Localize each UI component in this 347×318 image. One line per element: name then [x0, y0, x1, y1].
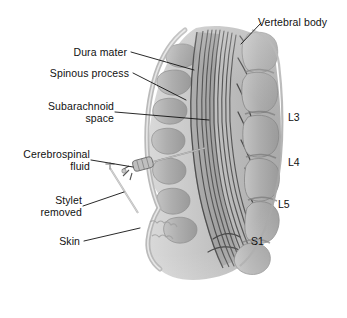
label-subarachnoid-space: Subarachnoid space: [11, 100, 114, 124]
label-vertebral-body: Vertebral body: [258, 16, 344, 28]
label-skin: Skin: [30, 235, 80, 247]
csf-droplet: [122, 169, 126, 173]
lumbar-puncture-figure: Vertebral body Dura mater Spinous proces…: [0, 0, 347, 318]
level-label-l3: L3: [288, 111, 300, 123]
level-label-s1: S1: [251, 235, 264, 247]
label-stylet-removed: Stylet removed: [8, 194, 82, 218]
label-cerebrospinal-fluid: Cerebrospinal fluid: [8, 148, 90, 172]
label-cerebrospinal-fluid-line1: Cerebrospinal: [8, 148, 90, 160]
level-label-l5: L5: [278, 198, 290, 210]
label-subarachnoid-space-line2: space: [11, 112, 114, 124]
label-cerebrospinal-fluid-line2: fluid: [8, 160, 90, 172]
label-stylet-removed-line1: Stylet: [8, 194, 82, 206]
label-dura-mater: Dura mater: [25, 46, 127, 58]
label-spinous-process: Spinous process: [11, 67, 129, 79]
level-label-l4: L4: [288, 156, 300, 168]
label-stylet-removed-line2: removed: [8, 206, 82, 218]
label-subarachnoid-space-line1: Subarachnoid: [11, 100, 114, 112]
